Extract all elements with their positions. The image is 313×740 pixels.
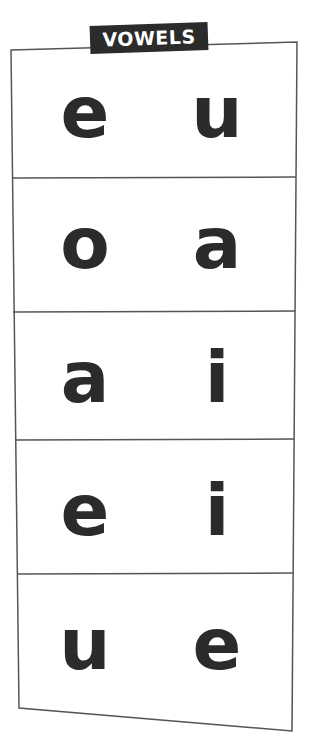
letter-row4-right: i (182, 474, 252, 546)
row-divider (12, 177, 296, 178)
letter-row1-left: e (50, 76, 120, 148)
letter-row1-right: u (182, 76, 252, 148)
vowels-title-badge: VOWELS (90, 22, 209, 54)
row-divider (15, 439, 294, 440)
letter-row5-left: u (50, 608, 120, 680)
row-divider (13, 311, 295, 312)
letter-row3-right: i (182, 341, 252, 413)
letter-row2-right: a (182, 207, 252, 279)
letter-row5-right: e (182, 608, 252, 680)
letter-row4-left: e (50, 474, 120, 546)
card-frame (0, 0, 313, 740)
letter-row3-left: a (50, 341, 120, 413)
row-divider (17, 573, 293, 574)
letter-row2-left: o (50, 207, 120, 279)
